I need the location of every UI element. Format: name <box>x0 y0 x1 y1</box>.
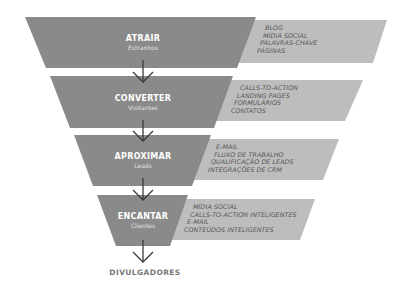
tactic-item: INTEGRAÇÕES DE CRM <box>208 166 294 174</box>
stage-title: ATRAIR <box>93 34 193 44</box>
tactic-item: PÁGINAS <box>257 47 317 55</box>
stage-subtitle: Clientes <box>93 222 193 229</box>
tactic-item: FLUXO DE TRABALHO <box>214 151 294 159</box>
tactic-item: CALLS-TO-ACTION INTELIGENTES <box>190 211 297 219</box>
stage-subtitle: Visitantes <box>93 104 193 111</box>
tactic-item: CALLS-TO-ACTION <box>240 84 298 92</box>
tactic-item: QUALIFICAÇÃO DE LEADS <box>211 158 294 166</box>
tactics-delight: MÍDIA SOCIAL CALLS-TO-ACTION INTELIGENTE… <box>190 203 297 233</box>
tactic-item: E-MAIL <box>216 143 294 151</box>
tactics-close: E-MAIL FLUXO DE TRABALHO QUALIFICAÇÃO DE… <box>213 143 294 173</box>
final-label-promoters: DIVULGADORES <box>0 268 290 277</box>
tactic-item: CONTEÚDOS INTELIGENTES <box>184 226 297 234</box>
tactic-item: MÍDIA SOCIAL <box>263 32 317 40</box>
tactic-item: PALAVRAS-CHAVE <box>260 39 317 47</box>
stage-title: APROXIMAR <box>93 152 193 162</box>
tactic-item: E-MAIL <box>187 218 297 226</box>
stage-title: ENCANTAR <box>93 212 193 222</box>
stage-close: APROXIMAR Leads <box>93 152 193 169</box>
tactic-item: FORMULÁRIOS <box>234 99 298 107</box>
stage-delight: ENCANTAR Clientes <box>93 212 193 229</box>
stage-title: CONVERTER <box>93 94 193 104</box>
stage-subtitle: Leads <box>93 162 193 169</box>
tactic-item: LANDING PAGES <box>237 92 298 100</box>
tactics-attract: BLOG MÍDIA SOCIAL PALAVRAS-CHAVE PÁGINAS <box>259 24 317 54</box>
tactic-item: BLOG <box>265 24 317 32</box>
tactic-item: CONTATOS <box>231 107 298 115</box>
tactic-item: MÍDIA SOCIAL <box>193 203 297 211</box>
stage-attract: ATRAIR Estranhos <box>93 34 193 51</box>
tactics-convert: CALLS-TO-ACTION LANDING PAGES FORMULÁRIO… <box>236 84 298 114</box>
stage-subtitle: Estranhos <box>93 44 193 51</box>
stage-convert: CONVERTER Visitantes <box>93 94 193 111</box>
funnel-shapes <box>0 0 412 293</box>
